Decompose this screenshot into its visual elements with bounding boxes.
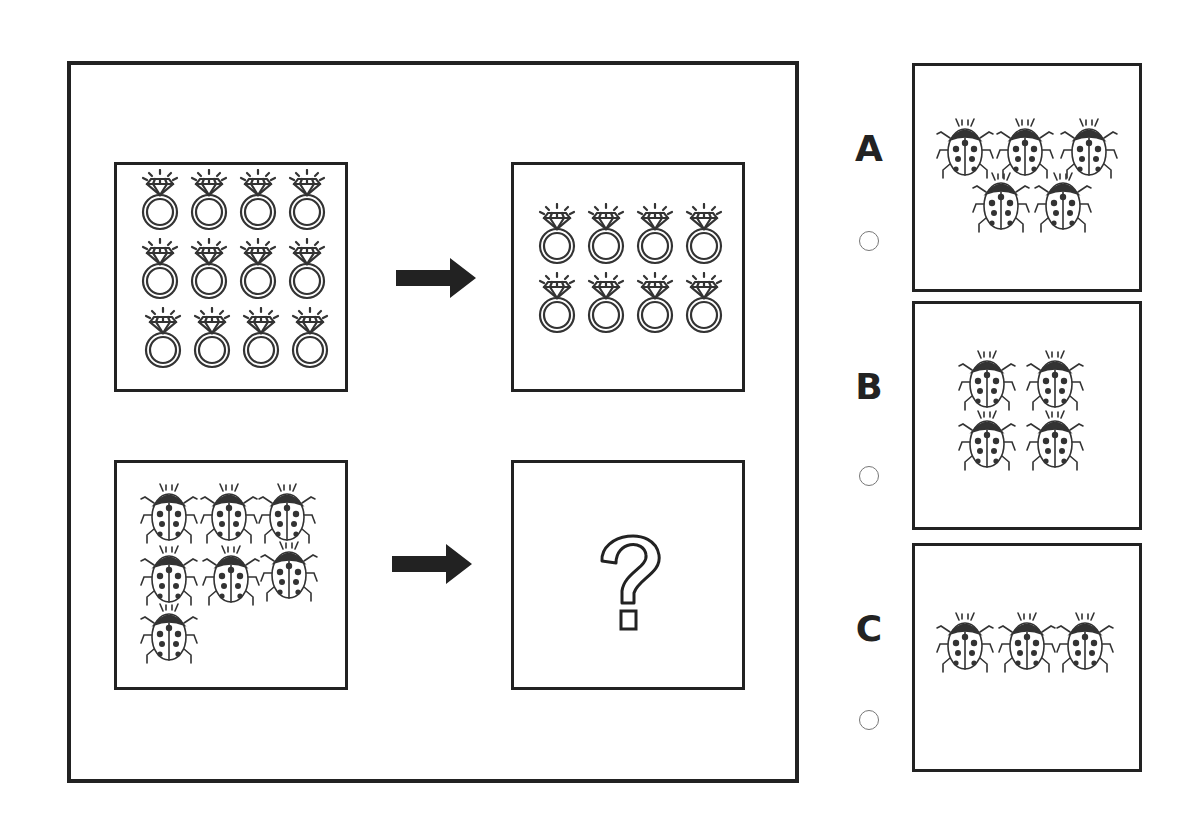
ring-grid xyxy=(514,165,742,389)
option-b-box[interactable] xyxy=(912,301,1142,530)
option-b-radio[interactable] xyxy=(859,466,879,486)
option-c-box[interactable] xyxy=(912,543,1142,772)
question-mark-icon xyxy=(514,463,742,687)
ladybug-icon xyxy=(915,304,1139,527)
unknown-answer-panel xyxy=(511,460,745,690)
option-label: C xyxy=(849,608,889,649)
right-arrow-icon xyxy=(392,544,472,584)
target-rings-panel xyxy=(511,162,745,392)
source-ladybugs-panel xyxy=(114,460,348,690)
diamond-ring-icon xyxy=(540,204,721,332)
diamond-ring-icon xyxy=(143,170,327,367)
option-label: A xyxy=(849,128,889,169)
ladybug-grid xyxy=(117,463,345,687)
option-a-box[interactable] xyxy=(912,63,1142,292)
option-a-radio[interactable] xyxy=(859,231,879,251)
option-label: B xyxy=(849,366,889,407)
ladybug-icon xyxy=(915,546,1139,769)
ladybug-icon xyxy=(915,66,1139,289)
option-c-radio[interactable] xyxy=(859,710,879,730)
right-arrow-icon xyxy=(396,258,476,298)
ring-grid xyxy=(117,165,345,389)
source-rings-panel xyxy=(114,162,348,392)
ladybug-icon xyxy=(141,484,317,663)
